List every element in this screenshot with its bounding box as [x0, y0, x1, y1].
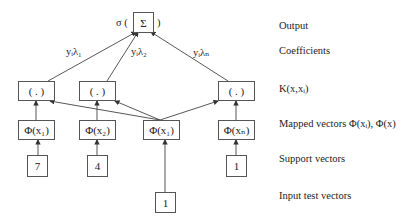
row-label-mapped: Mapped vectors Φ(xᵢ), Φ(x)	[279, 118, 396, 129]
coefficient-2: yᵢλ₂	[131, 46, 147, 57]
support-vector-1: 7	[27, 155, 48, 177]
kernel-node-label: ( . )	[29, 85, 45, 97]
support-vector-label: 4	[95, 160, 101, 172]
mapped-node-1: Φ(x₁)	[18, 120, 55, 140]
sum-symbol: Σ	[140, 17, 146, 29]
mapped-node-label: Φ(x₂)	[85, 124, 110, 136]
mapped-node-label: Φ(x₁)	[149, 124, 174, 136]
mapped-node-input: Φ(x₁)	[143, 120, 180, 140]
support-vector-n: 1	[226, 155, 247, 177]
mapped-node-2: Φ(x₂)	[79, 120, 116, 140]
mapped-node-n: Φ(xₙ)	[218, 120, 255, 140]
kernel-node-n: ( . )	[218, 81, 255, 101]
support-vector-label: 1	[234, 160, 240, 172]
support-vector-2: 4	[87, 155, 108, 177]
row-label-kernel: K(x,xᵢ)	[279, 83, 308, 94]
row-label-coefficients: Coefficients	[279, 45, 330, 56]
sigma-prefix: σ (	[116, 17, 128, 28]
kernel-node-2: ( . )	[79, 81, 116, 101]
kernel-node-label: ( . )	[90, 85, 106, 97]
coefficient-n: yᵢλₙ	[193, 46, 210, 58]
row-label-output: Output	[279, 20, 308, 31]
row-label-input: Input test vectors	[279, 190, 351, 201]
row-label-support: Support vectors	[279, 153, 345, 164]
input-vector-label: 1	[163, 197, 169, 209]
mapped-node-label: Φ(xₙ)	[224, 124, 250, 137]
sigma-suffix: )	[157, 17, 161, 28]
input-test-vector: 1	[155, 192, 176, 213]
kernel-node-label: ( . )	[229, 85, 245, 97]
kernel-node-1: ( . )	[18, 81, 55, 101]
coefficient-1: yᵢλ₁	[66, 46, 82, 57]
support-vector-label: 7	[35, 160, 41, 172]
sum-node: Σ	[133, 12, 154, 33]
mapped-node-label: Φ(x₁)	[24, 124, 49, 136]
